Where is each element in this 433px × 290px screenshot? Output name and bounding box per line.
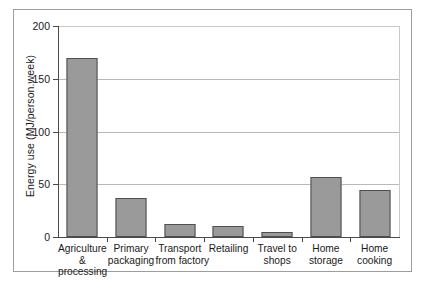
bar bbox=[310, 177, 341, 237]
y-axis-tick-label: 50 bbox=[16, 178, 50, 190]
x-axis-tick-label: Agriculture&processing bbox=[58, 243, 107, 278]
bar-slot bbox=[107, 26, 156, 237]
bar-slot bbox=[253, 26, 302, 237]
x-axis-tick-label: Transportfrom factory bbox=[155, 243, 204, 266]
y-axis-tick-label: 150 bbox=[16, 73, 50, 85]
bar-series bbox=[58, 26, 399, 237]
x-axis-tick bbox=[302, 237, 303, 242]
chart-figure: Energy use (MJ/person.week) 050100150200… bbox=[13, 9, 412, 272]
bar bbox=[164, 224, 195, 237]
x-axis-tick-label: Travel toshops bbox=[253, 243, 302, 266]
bar bbox=[213, 226, 244, 237]
x-axis-tick bbox=[350, 237, 351, 242]
bar-slot bbox=[204, 26, 253, 237]
x-axis-tick-labels: Agriculture&processingPrimarypackagingTr… bbox=[58, 243, 399, 289]
y-axis-tick-label: 0 bbox=[16, 231, 50, 243]
y-axis-tick-label: 100 bbox=[16, 126, 50, 138]
bar-slot bbox=[350, 26, 399, 237]
y-axis-tick-label: 200 bbox=[16, 20, 50, 32]
x-axis-tick-label: Primarypackaging bbox=[107, 243, 156, 266]
x-axis-tick-label: Homecooking bbox=[350, 243, 399, 266]
x-axis-tick-label: Homestorage bbox=[302, 243, 351, 266]
bar-slot bbox=[155, 26, 204, 237]
x-axis-tick bbox=[253, 237, 254, 242]
x-axis-tick-label: Retailing bbox=[204, 243, 253, 255]
x-axis-tick bbox=[155, 237, 156, 242]
x-axis-tick bbox=[204, 237, 205, 242]
x-axis-tick bbox=[107, 237, 108, 242]
bar bbox=[116, 198, 147, 237]
bar bbox=[359, 190, 390, 237]
bar bbox=[262, 232, 293, 237]
bar bbox=[67, 58, 98, 237]
bar-slot bbox=[302, 26, 351, 237]
y-axis-tick-labels: 050100150200 bbox=[14, 10, 50, 273]
bar-slot bbox=[58, 26, 107, 237]
